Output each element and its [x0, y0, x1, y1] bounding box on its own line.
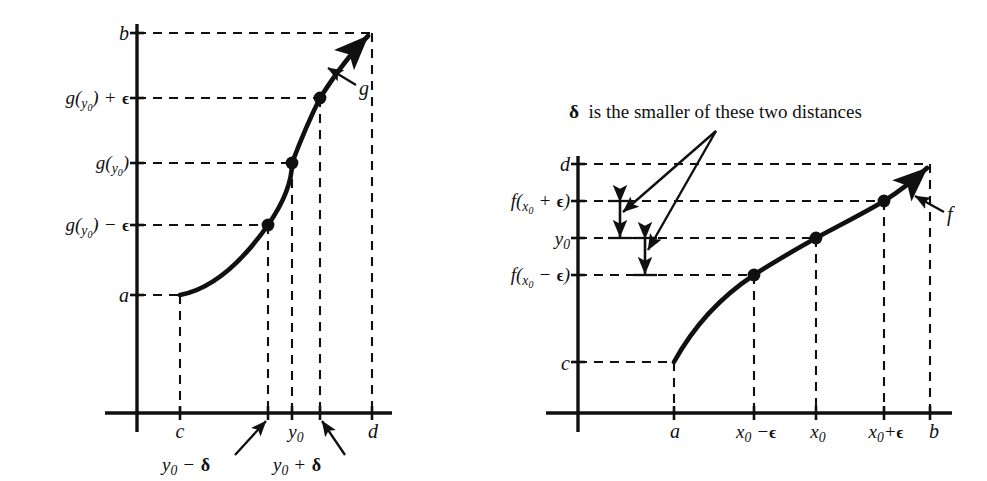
left-ylabel-g-y0-minus-eps: g(y0) − ϵ [66, 215, 130, 239]
left-xlabel-y0: y0 [288, 422, 303, 445]
point-y0-plus-delta [314, 92, 327, 105]
right-ylabel-y0: y0 [555, 229, 570, 252]
point-y0 [286, 157, 299, 170]
figure-svg [0, 0, 987, 481]
delta-caption: δ is the smaller of these two distances [569, 102, 862, 121]
measure-bar-lower [633, 238, 657, 275]
right-xlabel-x0-minus-eps: x0 −ϵ [736, 422, 776, 445]
left-ylabel-g-y0: g(y0) [96, 153, 129, 177]
left-annotation-y0-minus-delta: y0 − δ [162, 455, 210, 478]
left-vertical-guides [180, 33, 372, 413]
left-xlabel-c: c [176, 421, 185, 441]
leader-y0-minus-delta [235, 421, 266, 455]
left-annotation-y0-plus-delta: y0 + δ [273, 455, 321, 478]
left-curve-points [262, 92, 327, 232]
caption-leader-lower [648, 131, 716, 250]
right-ylabel-c: c [561, 353, 570, 373]
caption-leader-upper [623, 131, 716, 212]
left-ylabel-g-y0-plus-eps: g(y0) + ϵ [66, 88, 130, 112]
right-ylabel-d: d [560, 154, 570, 174]
left-curve-label-g: g [359, 78, 369, 98]
right-xlabel-x0-plus-eps: x0+ϵ [869, 422, 904, 445]
right-xlabel-x0: x0 [810, 422, 825, 445]
point-y0-minus-delta [262, 219, 275, 232]
left-xlabel-d: d [368, 421, 378, 441]
left-ylabel-b: b [119, 23, 129, 43]
right-horizontal-guides [578, 164, 930, 362]
left-ylabel-a: a [119, 285, 129, 305]
figure-root: b g(y0) + ϵ g(y0) g(y0) − ϵ a c y0 d y0 … [0, 0, 987, 481]
right-ylabel-f-x0-plus-eps: f(x0 + ϵ) [511, 191, 570, 215]
right-ylabel-f-x0-minus-eps: f(x0 − ϵ) [511, 265, 570, 289]
point-x0 [810, 232, 823, 245]
leader-y0-plus-delta [322, 421, 345, 455]
right-panel-graph [546, 131, 952, 432]
point-x0-minus-eps [748, 269, 761, 282]
right-xlabel-a: a [670, 421, 680, 441]
left-panel-graph [105, 24, 392, 455]
right-curve-label-f: f [947, 204, 953, 224]
right-xlabel-b: b [929, 421, 939, 441]
point-x0-plus-eps [878, 195, 891, 208]
